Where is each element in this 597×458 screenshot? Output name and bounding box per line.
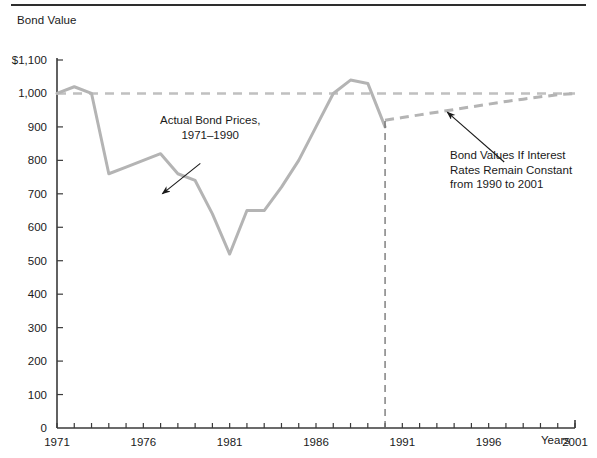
x-tick-label-1991: 1991 — [390, 436, 416, 448]
chart-plot-area — [0, 0, 597, 458]
y-tick-label-500: 500 — [0, 255, 47, 267]
x-tick-label-1976: 1976 — [131, 436, 157, 448]
x-tick-label-1981: 1981 — [217, 436, 243, 448]
x-tick-label-1986: 1986 — [303, 436, 329, 448]
actual-series-line — [57, 80, 385, 254]
annotation-actual-bond-prices: Actual Bond Prices, 1971–1990 — [160, 113, 260, 142]
annotation-forecast-bond-values: Bond Values If Interest Rates Remain Con… — [450, 148, 572, 192]
y-tick-label-600: 600 — [0, 221, 47, 233]
y-tick-label-900: 900 — [0, 121, 47, 133]
y-tick-label-1000: 1,000 — [0, 87, 47, 99]
y-tick-label-100: 100 — [0, 389, 47, 401]
y-tick-marks — [57, 60, 63, 395]
axis-lines — [57, 58, 575, 428]
bond-value-chart-figure: Bond Value Years 01002003004005006007008… — [0, 0, 597, 458]
y-tick-label-700: 700 — [0, 188, 47, 200]
forecast-series-line — [385, 93, 575, 120]
y-tick-label-300: 300 — [0, 322, 47, 334]
y-tick-label-400: 400 — [0, 288, 47, 300]
x-tick-marks — [57, 420, 575, 428]
y-tick-label-0: 0 — [0, 422, 47, 434]
x-tick-label-2001: 2001 — [562, 436, 588, 448]
x-tick-label-1996: 1996 — [476, 436, 502, 448]
x-tick-label-1971: 1971 — [44, 436, 70, 448]
y-tick-label-800: 800 — [0, 154, 47, 166]
y-tick-label-1100: $1,100 — [0, 54, 47, 66]
y-tick-label-200: 200 — [0, 355, 47, 367]
